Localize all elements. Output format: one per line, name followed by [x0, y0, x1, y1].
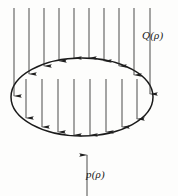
reaction-pressure-label: p(ρ) — [86, 168, 105, 180]
interior-load-arrow-group — [26, 79, 137, 135]
incident-load-label: Q(ρ) — [142, 29, 163, 41]
elliptical-surface-outline — [11, 58, 153, 136]
figure-container: Q(ρ) p(ρ) — [0, 0, 178, 196]
surface-ellipse — [11, 58, 153, 136]
incident-load-arrow-group — [14, 8, 150, 96]
